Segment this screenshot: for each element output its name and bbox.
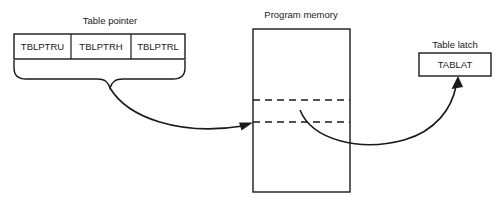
memory-to-latch-arrowhead [452,76,464,89]
table-pointer-label: Table pointer [83,15,137,26]
register-tblptrh: TBLPTRH [79,41,122,52]
table-latch-label: Table latch [432,39,477,50]
table-pointer-brace [14,60,185,88]
pointer-to-memory-curve [110,88,243,129]
table-read-diagram: Table pointer TBLPTRU TBLPTRH TBLPTRL Pr… [0,0,504,208]
program-memory-label: Program memory [264,9,338,20]
pointer-to-memory-arrowhead [239,123,253,131]
diagram-canvas: Table pointer TBLPTRU TBLPTRH TBLPTRL Pr… [0,0,504,208]
register-tablat: TABLAT [438,59,473,70]
program-memory-box [253,29,350,192]
register-tblptrl: TBLPTRL [137,41,179,52]
register-tblptru: TBLPTRU [21,41,64,52]
